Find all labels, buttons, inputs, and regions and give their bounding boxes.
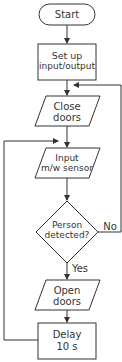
setup-label-line1: Set up (38, 50, 96, 61)
yes-edge-label: Yes (68, 263, 92, 274)
open-label-line1: Open (38, 285, 96, 296)
close-label-line1: Close (38, 101, 96, 112)
delay-label-line1: Delay (38, 329, 96, 340)
input-label-line2: m/w sensor (36, 163, 98, 174)
setup-label-line2: input/output (36, 61, 98, 72)
start-label: Start (39, 9, 95, 20)
no-edge-label: No (99, 221, 121, 232)
delay-label-line2: 10 s (38, 341, 96, 352)
close-label-line2: doors (38, 112, 96, 123)
decision-label-line2: detected? (36, 230, 98, 241)
open-label-line2: doors (38, 296, 96, 307)
